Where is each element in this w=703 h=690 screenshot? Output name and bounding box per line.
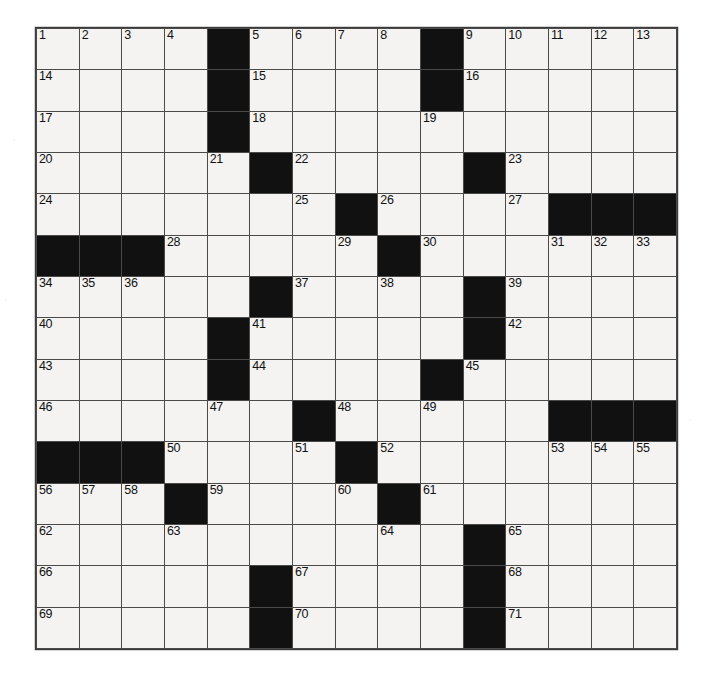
grid-cell[interactable]: [506, 236, 548, 276]
grid-cell[interactable]: 71: [506, 608, 548, 648]
grid-cell[interactable]: 20: [37, 153, 79, 193]
grid-cell[interactable]: [208, 608, 250, 648]
grid-cell[interactable]: [80, 401, 122, 441]
grid-cell[interactable]: [592, 360, 634, 400]
grid-cell[interactable]: 24: [37, 194, 79, 234]
grid-cell[interactable]: 31: [549, 236, 591, 276]
grid-cell[interactable]: 52: [378, 442, 420, 482]
grid-cell[interactable]: [80, 360, 122, 400]
grid-cell[interactable]: 22: [293, 153, 335, 193]
grid-cell[interactable]: 68: [506, 566, 548, 606]
grid-cell[interactable]: 49: [421, 401, 463, 441]
grid-cell[interactable]: [549, 360, 591, 400]
grid-cell[interactable]: [421, 608, 463, 648]
grid-cell[interactable]: [165, 153, 207, 193]
grid-cell[interactable]: [208, 236, 250, 276]
grid-cell[interactable]: [549, 70, 591, 110]
grid-cell[interactable]: [165, 566, 207, 606]
grid-cell[interactable]: [592, 484, 634, 524]
grid-cell[interactable]: [506, 70, 548, 110]
grid-cell[interactable]: 33: [634, 236, 676, 276]
grid-cell[interactable]: [464, 112, 506, 152]
grid-cell[interactable]: [293, 236, 335, 276]
grid-cell[interactable]: [80, 153, 122, 193]
grid-cell[interactable]: [421, 442, 463, 482]
grid-cell[interactable]: [336, 566, 378, 606]
grid-cell[interactable]: [592, 525, 634, 565]
grid-cell[interactable]: 16: [464, 70, 506, 110]
grid-cell[interactable]: 65: [506, 525, 548, 565]
grid-cell[interactable]: 15: [250, 70, 292, 110]
grid-cell[interactable]: [336, 70, 378, 110]
grid-cell[interactable]: 45: [464, 360, 506, 400]
grid-cell[interactable]: [293, 484, 335, 524]
grid-cell[interactable]: 17: [37, 112, 79, 152]
grid-cell[interactable]: [592, 318, 634, 358]
grid-cell[interactable]: [250, 484, 292, 524]
grid-cell[interactable]: [549, 566, 591, 606]
grid-cell[interactable]: [80, 112, 122, 152]
grid-cell[interactable]: [293, 360, 335, 400]
crossword-grid[interactable]: 1234567891011121314151617181920212223242…: [35, 27, 678, 650]
grid-cell[interactable]: [592, 566, 634, 606]
grid-cell[interactable]: [122, 566, 164, 606]
grid-cell[interactable]: [378, 401, 420, 441]
grid-cell[interactable]: [464, 401, 506, 441]
grid-cell[interactable]: [549, 277, 591, 317]
grid-cell[interactable]: 5: [250, 29, 292, 69]
grid-cell[interactable]: [634, 153, 676, 193]
grid-cell[interactable]: [421, 153, 463, 193]
grid-cell[interactable]: 66: [37, 566, 79, 606]
grid-cell[interactable]: [293, 525, 335, 565]
grid-cell[interactable]: [549, 484, 591, 524]
grid-cell[interactable]: [464, 236, 506, 276]
grid-cell[interactable]: 10: [506, 29, 548, 69]
grid-cell[interactable]: [165, 112, 207, 152]
grid-cell[interactable]: 25: [293, 194, 335, 234]
grid-cell[interactable]: 35: [80, 277, 122, 317]
grid-cell[interactable]: [336, 525, 378, 565]
grid-cell[interactable]: [250, 525, 292, 565]
grid-cell[interactable]: [293, 318, 335, 358]
grid-cell[interactable]: [634, 566, 676, 606]
grid-cell[interactable]: 19: [421, 112, 463, 152]
grid-cell[interactable]: [378, 112, 420, 152]
grid-cell[interactable]: [165, 360, 207, 400]
grid-cell[interactable]: [592, 112, 634, 152]
grid-cell[interactable]: 55: [634, 442, 676, 482]
grid-cell[interactable]: 44: [250, 360, 292, 400]
grid-cell[interactable]: [165, 277, 207, 317]
grid-cell[interactable]: [208, 442, 250, 482]
grid-cell[interactable]: 61: [421, 484, 463, 524]
grid-cell[interactable]: [80, 194, 122, 234]
grid-cell[interactable]: 28: [165, 236, 207, 276]
grid-cell[interactable]: 23: [506, 153, 548, 193]
grid-cell[interactable]: [336, 608, 378, 648]
grid-cell[interactable]: 48: [336, 401, 378, 441]
grid-cell[interactable]: [122, 70, 164, 110]
grid-cell[interactable]: [421, 277, 463, 317]
grid-cell[interactable]: [122, 401, 164, 441]
grid-cell[interactable]: [208, 525, 250, 565]
grid-cell[interactable]: 42: [506, 318, 548, 358]
grid-cell[interactable]: [506, 484, 548, 524]
grid-cell[interactable]: 30: [421, 236, 463, 276]
grid-cell[interactable]: [80, 525, 122, 565]
grid-cell[interactable]: [634, 608, 676, 648]
grid-cell[interactable]: [634, 70, 676, 110]
grid-cell[interactable]: [293, 70, 335, 110]
grid-cell[interactable]: [122, 112, 164, 152]
grid-cell[interactable]: [122, 525, 164, 565]
grid-cell[interactable]: 18: [250, 112, 292, 152]
grid-cell[interactable]: [378, 566, 420, 606]
grid-cell[interactable]: [208, 194, 250, 234]
grid-cell[interactable]: 67: [293, 566, 335, 606]
grid-cell[interactable]: [378, 70, 420, 110]
grid-cell[interactable]: [122, 318, 164, 358]
grid-cell[interactable]: 63: [165, 525, 207, 565]
grid-cell[interactable]: [549, 112, 591, 152]
grid-cell[interactable]: 32: [592, 236, 634, 276]
grid-cell[interactable]: [336, 112, 378, 152]
grid-cell[interactable]: 53: [549, 442, 591, 482]
grid-cell[interactable]: 64: [378, 525, 420, 565]
